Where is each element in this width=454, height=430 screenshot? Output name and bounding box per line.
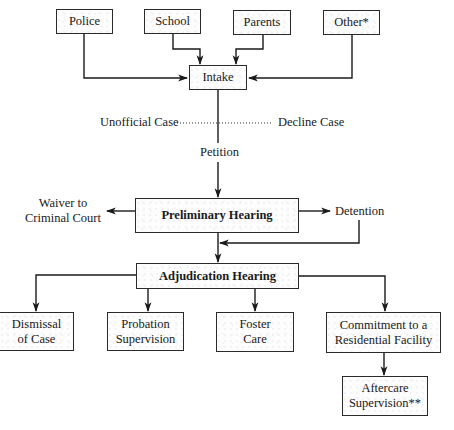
node-label-line1: Commitment to a: [340, 318, 428, 333]
edge-police-intake: [84, 34, 187, 78]
label-petition: Petition: [200, 145, 239, 160]
node-label-line1: Aftercare: [361, 381, 408, 396]
node-label-line1: Probation: [121, 317, 170, 332]
label-decline-case: Decline Case: [278, 115, 344, 130]
label-line: Waiver to: [24, 196, 102, 211]
node-probation-supervision: Probation Supervision: [107, 312, 184, 351]
node-adjudication-hearing: Adjudication Hearing: [136, 263, 299, 289]
node-preliminary-hearing: Preliminary Hearing: [135, 198, 299, 233]
node-label-line2: Residential Facility: [335, 333, 433, 348]
node-commitment-residential-facility: Commitment to a Residential Facility: [326, 312, 441, 353]
edge-school-intake: [173, 34, 200, 64]
node-intake: Intake: [189, 65, 247, 90]
node-label: Police: [69, 14, 100, 29]
node-aftercare-supervision: Aftercare Supervision**: [342, 376, 428, 416]
node-label-line2: Supervision**: [349, 396, 421, 411]
node-label-line1: Foster: [239, 317, 270, 332]
edge-adjudication-dismissal: [36, 275, 136, 311]
node-police: Police: [56, 9, 113, 34]
node-label: Preliminary Hearing: [161, 208, 272, 223]
edge-parents-intake: [236, 35, 263, 64]
label-detention: Detention: [335, 204, 384, 219]
node-dismissal-of-case: Dismissal of Case: [0, 312, 74, 351]
node-label: Parents: [244, 15, 281, 30]
label-line: Criminal Court: [24, 211, 102, 226]
node-label: Adjudication Hearing: [159, 269, 276, 284]
node-label-line2: Care: [243, 332, 267, 347]
node-parents: Parents: [233, 10, 291, 35]
node-label: Intake: [202, 70, 233, 85]
node-label-line2: Supervision: [116, 332, 176, 347]
node-label-line2: of Case: [18, 332, 56, 347]
node-school: School: [144, 9, 201, 34]
edge-adjudication-commitment: [299, 276, 385, 311]
node-label-line1: Dismissal: [12, 317, 61, 332]
node-label: Other*: [334, 15, 369, 30]
node-label: School: [155, 14, 190, 29]
node-other: Other*: [323, 10, 380, 35]
node-foster-care: Foster Care: [216, 312, 294, 352]
edge-other-intake: [249, 35, 352, 78]
label-unofficial-case: Unofficial Case: [100, 115, 179, 130]
label-waiver-to-criminal-court: Waiver to Criminal Court: [24, 196, 102, 226]
